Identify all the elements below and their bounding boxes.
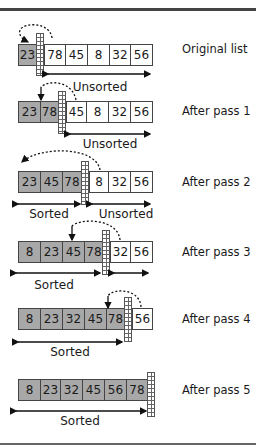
arrows-overlay xyxy=(0,0,256,448)
bottom-rule xyxy=(0,443,256,445)
insert-arrow-icon xyxy=(22,151,100,170)
insert-arrow-icon xyxy=(20,25,52,42)
